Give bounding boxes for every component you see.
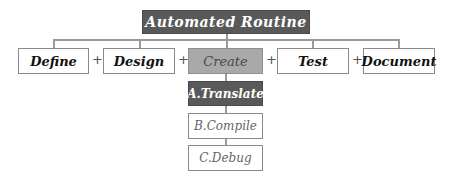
connector-design <box>139 39 141 48</box>
step-define: Define <box>18 48 89 74</box>
step-design: Design <box>103 48 175 74</box>
step-test: Test <box>277 48 349 74</box>
substep-debug: C.Debug <box>188 145 263 171</box>
substep-compile: B.Compile <box>188 113 263 139</box>
root-node: Automated Routine <box>142 10 310 34</box>
connector-document <box>398 39 400 48</box>
plus-sign: + <box>92 52 103 67</box>
connector-test <box>312 39 314 48</box>
step-create: Create <box>188 48 263 74</box>
connector-define <box>53 39 55 48</box>
plus-sign: + <box>266 52 277 67</box>
step-document: Document <box>363 48 435 74</box>
substep-translate: A.Translate <box>188 81 263 106</box>
horizontal-connector <box>53 39 399 41</box>
root-connector <box>226 34 228 48</box>
